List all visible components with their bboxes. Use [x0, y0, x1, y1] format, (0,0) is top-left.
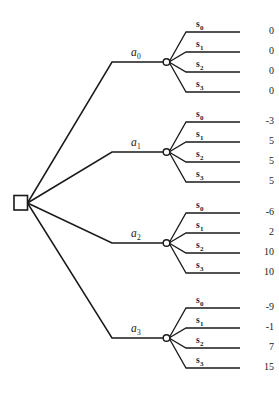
action-label-a2: a2 — [131, 228, 141, 240]
state-label-a3-s2: s2 — [196, 336, 203, 346]
payoff-a1-s3: 5 — [248, 176, 274, 186]
branch-edge-a1 — [28, 152, 166, 203]
action-label-a3: a3 — [131, 323, 141, 335]
action-letter-a2: a — [131, 227, 137, 239]
chance-node-a2 — [163, 240, 170, 247]
payoff-a0-s3: 0 — [248, 86, 274, 96]
chance-node-a3 — [163, 335, 170, 342]
state-label-a0-s2: s2 — [196, 60, 203, 70]
outcome-edge-a0-s1 — [169, 52, 240, 62]
payoff-a0-s2: 0 — [248, 66, 274, 76]
state-label-a2-s2: s2 — [196, 241, 203, 251]
payoff-a0-s1: 0 — [248, 46, 274, 56]
outcome-edges-a3 — [169, 308, 240, 368]
state-label-a1-s3: s3 — [196, 170, 203, 180]
state-label-a3-s0: s0 — [196, 296, 203, 306]
payoff-a0-s0: 0 — [248, 26, 274, 36]
state-label-a2-s0: s0 — [196, 201, 203, 211]
state-label-a3-s3: s3 — [196, 356, 203, 366]
chance-node-a0 — [163, 59, 170, 66]
root-decision-node — [14, 196, 28, 211]
state-label-a1-s0: s0 — [196, 110, 203, 120]
branch-edge-a3 — [28, 203, 166, 338]
outcome-edge-a3-s3 — [169, 338, 240, 368]
state-label-a0-s3: s3 — [196, 80, 203, 90]
payoff-a2-s2: 10 — [248, 247, 274, 257]
payoff-a3-s2: 7 — [248, 342, 274, 352]
action-label-a0: a0 — [131, 47, 141, 59]
payoff-a1-s0: -3 — [248, 116, 274, 126]
outcome-edge-a3-s2 — [169, 338, 240, 348]
outcome-edge-a2-s2 — [169, 243, 240, 253]
outcome-edges-a2 — [169, 213, 240, 273]
outcome-edge-a2-s1 — [169, 233, 240, 243]
payoff-a2-s1: 2 — [248, 227, 274, 237]
outcome-edge-a1-s3 — [169, 152, 240, 182]
outcome-edge-a1-s1 — [169, 142, 240, 152]
outcome-edge-a3-s0 — [169, 308, 240, 338]
action-sub-a2: 2 — [137, 233, 141, 242]
payoff-a3-s0: -9 — [248, 302, 274, 312]
action-branch-edges — [28, 62, 166, 338]
action-label-a1: a1 — [131, 137, 141, 149]
action-sub-a3: 3 — [137, 328, 141, 337]
payoff-a1-s1: 5 — [248, 136, 274, 146]
state-label-a3-s1: s1 — [196, 316, 203, 326]
state-label-a2-s1: s1 — [196, 221, 203, 231]
outcome-edge-a0-s3 — [169, 62, 240, 92]
action-letter-a0: a — [131, 46, 137, 58]
action-sub-a1: 1 — [137, 142, 141, 151]
state-label-a0-s0: s0 — [196, 20, 203, 30]
outcome-edge-a1-s0 — [169, 122, 240, 152]
payoff-a2-s3: 10 — [248, 267, 274, 277]
state-label-a1-s1: s1 — [196, 130, 203, 140]
chance-node-a1 — [163, 149, 170, 156]
branch-edge-a0 — [28, 62, 166, 203]
outcome-edges-a1 — [169, 122, 240, 182]
state-label-a0-s1: s1 — [196, 40, 203, 50]
outcome-edge-a3-s1 — [169, 328, 240, 338]
outcome-edge-a2-s3 — [169, 243, 240, 273]
state-label-a2-s3: s3 — [196, 261, 203, 271]
payoff-a3-s3: 15 — [248, 362, 274, 372]
action-sub-a0: 0 — [137, 52, 141, 61]
state-label-a1-s2: s2 — [196, 150, 203, 160]
payoff-a3-s1: -1 — [248, 322, 274, 332]
decision-tree-diagram: a0 a1 a2 a3 s0 0 s1 0 s2 0 s3 0 s0 -3 s1… — [0, 0, 279, 397]
payoff-a1-s2: 5 — [248, 156, 274, 166]
outcome-edges-a0 — [169, 32, 240, 92]
outcome-edge-a0-s0 — [169, 32, 240, 62]
outcome-edge-a0-s2 — [169, 62, 240, 72]
outcome-edge-a2-s0 — [169, 213, 240, 243]
outcome-edge-a1-s2 — [169, 152, 240, 162]
payoff-a2-s0: -6 — [248, 207, 274, 217]
action-letter-a1: a — [131, 136, 137, 148]
action-letter-a3: a — [131, 322, 137, 334]
